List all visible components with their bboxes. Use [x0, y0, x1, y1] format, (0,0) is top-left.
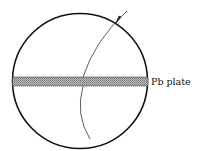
direction-arrow-icon — [116, 16, 121, 23]
pb-plate — [13, 77, 149, 86]
pb-plate-label: Pb plate — [151, 76, 191, 87]
diagram-canvas: Pb plate — [0, 0, 200, 151]
particle-track-lower — [80, 86, 90, 139]
particle-track-upper — [83, 11, 127, 77]
